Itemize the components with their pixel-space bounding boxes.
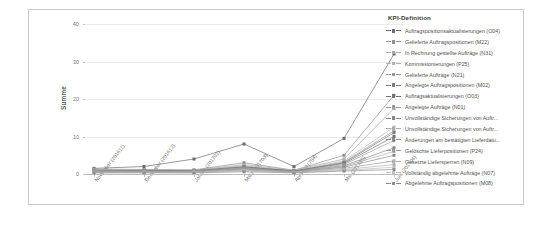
legend-item-label: Unvollständige Sicherungen von Auftr...: [405, 126, 498, 132]
legend-item-label: Kommissionierungen (P25): [405, 61, 469, 67]
legend-item-label: In Rechnung gestellte Aufträge (N31): [405, 50, 493, 56]
legend-item[interactable]: Auftragspositionsaktualisierungen (O04): [386, 26, 526, 37]
legend-key-icon: [386, 125, 401, 132]
y-tick-label: 30: [73, 59, 79, 65]
y-tick-label: 10: [73, 134, 79, 140]
legend-item-label: Gelieferte Auftragspositionen (M22): [405, 39, 489, 45]
data-point: [143, 165, 146, 168]
legend-item[interactable]: Auftragsaktualisierungen (O03): [386, 91, 526, 102]
legend-item[interactable]: Vollständig abgelehnte Aufträge (N07): [386, 167, 526, 178]
legend: KPI-Definition Auftragspositionsaktualis…: [386, 14, 526, 189]
legend-key-icon: [386, 49, 401, 56]
legend-item[interactable]: Änderungen am bestätigten Lieferdatu...: [386, 134, 526, 145]
legend-item-label: Gelöschte Lieferpositionen (P24): [405, 148, 483, 154]
legend-item-label: Gelieferte Aufträge (N21): [405, 72, 464, 78]
legend-item[interactable]: Gelöschte Lieferpositionen (P24): [386, 145, 526, 156]
legend-item[interactable]: Gesetzte Liefersperren (N09): [386, 156, 526, 167]
legend-item[interactable]: Gelieferte Aufträge (N21): [386, 69, 526, 80]
legend-item-label: Unvollständige Sicherungen von Auftr...: [405, 115, 498, 121]
series-lines: [85, 24, 403, 174]
data-point: [343, 170, 346, 173]
legend-key-icon: [386, 169, 401, 176]
legend-key-icon: [386, 158, 401, 165]
series-line: [94, 54, 394, 168]
x-axis-line: [85, 174, 403, 175]
data-point: [243, 170, 246, 173]
legend-key-icon: [386, 93, 401, 100]
legend-item-label: Vollständig abgelehnte Aufträge (N07): [405, 170, 495, 176]
data-point: [343, 154, 346, 157]
legend-key-icon: [386, 136, 401, 143]
plot-area: 010203040 November (201611)Dezember (201…: [85, 24, 403, 174]
legend-key-icon: [386, 82, 401, 89]
data-point: [143, 171, 146, 174]
data-point: [193, 171, 196, 174]
data-point: [243, 143, 246, 146]
y-tick-label: 40: [73, 21, 79, 27]
legend-item[interactable]: Angelegte Auftragspositionen (M02): [386, 80, 526, 91]
legend-item-label: Angelegte Auftragspositionen (M02): [405, 82, 490, 88]
y-tick-label: 20: [73, 96, 79, 102]
legend-item[interactable]: In Rechnung gestellte Aufträge (N31): [386, 47, 526, 58]
y-tick-label: 0: [76, 171, 79, 177]
legend-title: KPI-Definition: [388, 14, 526, 21]
data-point: [93, 171, 96, 174]
legend-item-label: Auftragsaktualisierungen (O03): [405, 93, 479, 99]
legend-item-label: Gesetzte Liefersperren (N09): [405, 159, 474, 165]
legend-item[interactable]: Unvollständige Sicherungen von Auftr...: [386, 124, 526, 135]
legend-key-icon: [386, 180, 401, 187]
legend-item-label: Auftragspositionsaktualisierungen (O04): [405, 28, 500, 34]
legend-item-label: Abgelehnte Auftragspositionen (M08): [405, 180, 493, 186]
chart-figure: Summe 010203040 November (201611)Dezembe…: [0, 0, 538, 234]
legend-item-label: Änderungen am bestätigten Lieferdatu...: [405, 137, 500, 143]
legend-item[interactable]: Abgelehnte Auftragspositionen (M08): [386, 178, 526, 189]
series-1: [93, 53, 396, 170]
y-axis-label: Summe: [60, 86, 67, 110]
legend-item[interactable]: Kommissionierungen (P25): [386, 58, 526, 69]
legend-item-label: Angelegte Aufträge (N01): [405, 104, 465, 110]
data-point: [343, 137, 346, 140]
legend-key-icon: [386, 27, 401, 34]
data-point: [193, 158, 196, 161]
legend-items: Auftragspositionsaktualisierungen (O04)G…: [386, 26, 526, 189]
legend-key-icon: [386, 71, 401, 78]
legend-key-icon: [386, 147, 401, 154]
legend-key-icon: [386, 115, 401, 122]
legend-item[interactable]: Unvollständige Sicherungen von Auftr...: [386, 113, 526, 124]
legend-key-icon: [386, 38, 401, 45]
legend-key-icon: [386, 60, 401, 67]
legend-item[interactable]: Gelieferte Auftragspositionen (M22): [386, 36, 526, 47]
data-point: [293, 165, 296, 168]
legend-key-icon: [386, 104, 401, 111]
data-point: [293, 171, 296, 174]
legend-item[interactable]: Angelegte Aufträge (N01): [386, 102, 526, 113]
